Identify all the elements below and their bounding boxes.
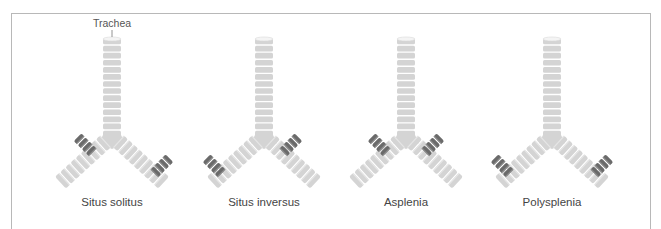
bronchial-tree-asplenia	[349, 37, 463, 189]
bronchial-anatomy-diagram	[0, 0, 661, 229]
panel-label: Polysplenia	[523, 196, 582, 208]
panel-label: Situs inversus	[228, 196, 300, 208]
bronchial-tree-polysplenia	[491, 37, 614, 189]
bronchial-tree-situs-solitus	[55, 37, 173, 189]
panel-label: Situs solitus	[81, 196, 142, 208]
trachea-annotation: Trachea	[93, 17, 131, 29]
panel-label: Asplenia	[384, 196, 428, 208]
bronchial-tree-situs-inversus	[203, 37, 321, 189]
